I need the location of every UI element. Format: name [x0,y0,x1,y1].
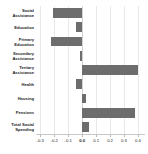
y-axis-label: Education [0,20,34,34]
bar-row [36,6,145,20]
bar [53,8,82,18]
bar [76,79,82,89]
bar [82,108,135,118]
y-axis-label: PrimaryEducation [0,34,34,48]
y-axis-label: Total SocialSpending [0,120,34,134]
y-axis-label-line: Assistance [12,70,34,75]
y-axis-label-line: Education [14,25,34,30]
x-axis-tick [110,135,111,137]
bar-row [36,34,145,48]
y-axis-labels: SocialAssistanceEducationPrimaryEducatio… [0,6,34,134]
bar-row [36,106,145,120]
y-axis-label-line: Health [21,82,34,87]
y-axis-label: Health [0,77,34,91]
bar [76,22,82,32]
bar [82,122,89,132]
plot-area [36,6,145,134]
y-axis-label: TertiaryAssistance [0,63,34,77]
bar-chart: SocialAssistanceEducationPrimaryEducatio… [0,0,148,154]
x-axis-ticks: -0.3-0.2-0.10.00.10.20.30.4 [36,135,145,149]
y-axis-label: SocialAssistance [0,6,34,20]
bar-row [36,77,145,91]
bar [82,65,138,75]
x-axis-tick [138,135,139,137]
x-axis-tick-label: 0.4 [127,138,148,143]
x-axis-tick [54,135,55,137]
bar [80,51,82,61]
y-axis-label-line: Assistance [12,13,34,18]
bar-row [36,91,145,105]
y-axis-label-line: Housing [18,96,34,101]
x-axis-tick [96,135,97,137]
bar [51,37,82,47]
y-axis-label-line: Spending [11,127,34,132]
y-axis-label-line: Education [14,42,34,47]
x-axis-tick [82,135,83,137]
bar-row [36,63,145,77]
bar-series [36,6,145,134]
y-axis-label: Housing [0,91,34,105]
x-axis-tick [68,135,69,137]
y-axis-label: Pensions [0,106,34,120]
bar-row [36,20,145,34]
x-axis-tick [124,135,125,137]
bar [82,94,86,104]
y-axis-label: SecondaryAssistance [0,49,34,63]
y-axis-label-line: Pensions [16,110,34,115]
bar-row [36,120,145,134]
bar-row [36,49,145,63]
y-axis-label-line: Assistance [12,56,34,61]
x-axis-tick [40,135,41,137]
